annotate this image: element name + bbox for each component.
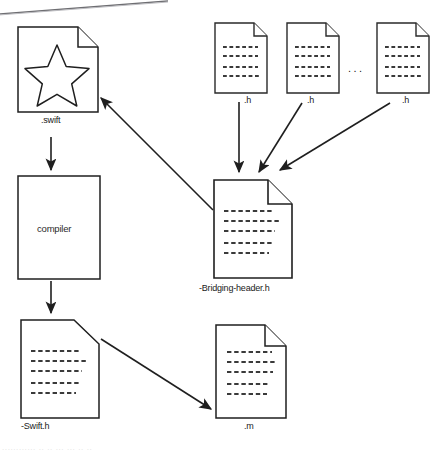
swift-file-node <box>18 27 98 112</box>
edge-header2-to-bridging <box>259 103 302 172</box>
label-compiler: compiler <box>37 223 71 234</box>
edge-bridging-to-swift <box>101 98 213 210</box>
header-file-1-node <box>215 23 267 93</box>
clipped-caption-artifact: ............ .. .. ... ... .. .. <box>2 443 302 452</box>
scan-artifact-line <box>0 1 168 15</box>
bridging-header-node <box>214 180 292 278</box>
header-file-3-node <box>377 23 429 93</box>
header-file-2-node <box>287 23 339 93</box>
label-swift-file: .swift <box>41 115 60 125</box>
label-header-file-2: .h <box>307 95 314 105</box>
label-m-file: .m <box>244 421 254 431</box>
label-swift-h-file: -Swift.h <box>21 421 49 431</box>
label-header-file-3: .h <box>402 95 409 105</box>
m-file-node <box>216 325 286 418</box>
ellipsis-between-headers: ... <box>348 62 365 74</box>
label-header-file-1: .h <box>244 95 251 105</box>
label-bridging-header: -Bridging-header.h <box>199 283 269 293</box>
edge-swift-h-to-m <box>101 339 211 409</box>
swift-h-file-node <box>21 320 99 418</box>
diagram-canvas: .swift compiler -Swift.h .h .h .h -Bridg… <box>0 0 442 453</box>
